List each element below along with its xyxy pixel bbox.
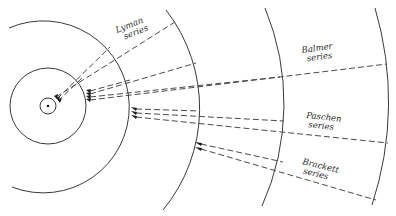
- balmer-label: Balmer series: [300, 41, 335, 64]
- hydrogen-orbit-diagram: Lyman series Balmer series Paschen serie…: [0, 0, 396, 216]
- paschen-label: Paschen series: [304, 110, 342, 133]
- orbit-n5: [262, 8, 284, 206]
- paschen-series-lines: [131, 107, 388, 143]
- lyman-series-lines: [54, 22, 175, 103]
- lyman-label: Lyman series: [113, 14, 150, 44]
- paschen-label-line2: series: [308, 119, 335, 132]
- brackett-series-lines: [195, 142, 376, 200]
- nucleus-dot: [47, 105, 50, 108]
- balmer-series-lines: [86, 63, 387, 102]
- orbit-n3: [9, 21, 129, 193]
- orbit-n6: [372, 8, 389, 205]
